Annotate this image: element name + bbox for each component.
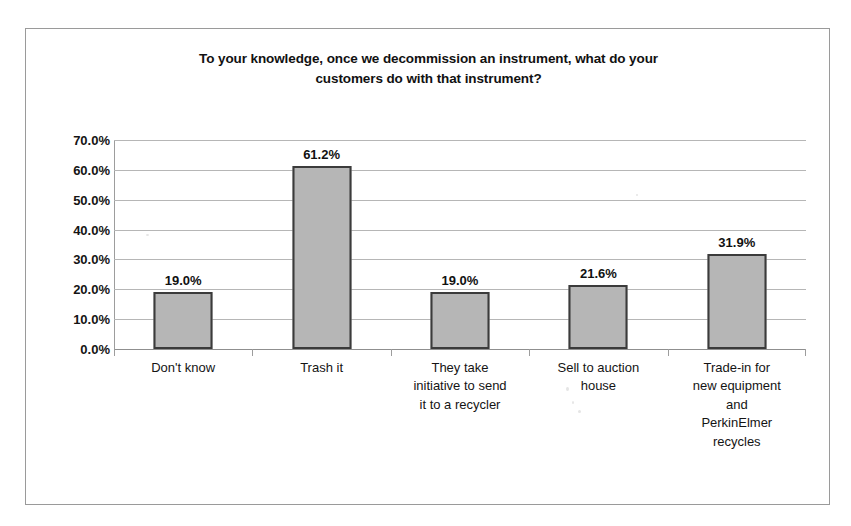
y-tick-label-40: 40.0%: [34, 222, 110, 237]
x-tick-3: [529, 349, 530, 356]
bar-trade-in-perkinelmer[interactable]: [707, 254, 766, 349]
bar-value-1: 19.0%: [165, 273, 202, 288]
x-tick-2: [391, 349, 392, 356]
y-tick-label-20: 20.0%: [34, 282, 110, 297]
x-label-dont-know: Don't know: [114, 359, 252, 377]
bar-sell-to-auction-house[interactable]: [569, 285, 628, 349]
x-label-sell-to-auction-house: Sell to auction house: [529, 359, 667, 396]
chart-title-line-1: To your knowledge, once we decommission …: [116, 49, 741, 69]
x-label-line: recycles: [668, 433, 806, 451]
x-label-line: Don't know: [114, 359, 252, 377]
x-label-line: initiative to send: [391, 377, 529, 395]
y-tick-label-50: 50.0%: [34, 192, 110, 207]
x-axis-labels: Don't know Trash it They take initiative…: [114, 359, 806, 489]
y-tick-label-0: 0.0%: [34, 342, 110, 357]
plot-area: 19.0% 61.2% 19.0% 21.6% 31.9%: [114, 140, 806, 349]
x-label-line: it to a recycler: [391, 396, 529, 414]
x-label-line: PerkinElmer: [668, 414, 806, 432]
x-label-trade-in-perkinelmer: Trade-in for new equipment and PerkinElm…: [668, 359, 806, 451]
bar-slot-4: 21.6%: [529, 140, 667, 349]
bar-slot-1: 19.0%: [114, 140, 252, 349]
x-tick-0: [114, 349, 115, 356]
bar-value-2: 61.2%: [303, 147, 340, 162]
y-axis-labels: 70.0% 60.0% 50.0% 40.0% 30.0% 20.0% 10.0…: [26, 140, 110, 349]
bar-dont-know[interactable]: [154, 292, 213, 349]
bar-value-5: 31.9%: [718, 235, 755, 250]
x-tick-1: [252, 349, 253, 356]
x-axis-ticks: [114, 349, 806, 356]
chart-title-line-2: customers do with that instrument?: [116, 69, 741, 89]
bar-they-take-initiative[interactable]: [430, 292, 489, 349]
bar-slot-5: 31.9%: [668, 140, 806, 349]
x-label-line: new equipment: [668, 377, 806, 395]
x-label-line: Trade-in for: [668, 359, 806, 377]
bar-value-4: 21.6%: [580, 266, 617, 281]
x-label-line: and: [668, 396, 806, 414]
x-label-line: house: [529, 377, 667, 395]
bar-trash-it[interactable]: [292, 166, 351, 349]
x-label-trash-it: Trash it: [252, 359, 390, 377]
chart-frame: To your knowledge, once we decommission …: [25, 28, 830, 505]
bar-slot-2: 61.2%: [252, 140, 390, 349]
x-label-they-take-initiative: They take initiative to send it to a rec…: [391, 359, 529, 414]
x-tick-4: [668, 349, 669, 356]
y-tick-label-10: 10.0%: [34, 312, 110, 327]
y-tick-label-60: 60.0%: [34, 162, 110, 177]
x-label-line: Sell to auction: [529, 359, 667, 377]
y-tick-label-70: 70.0%: [34, 133, 110, 148]
x-tick-5: [805, 349, 806, 356]
bar-value-3: 19.0%: [442, 273, 479, 288]
chart-title: To your knowledge, once we decommission …: [116, 49, 741, 88]
bar-slot-3: 19.0%: [391, 140, 529, 349]
x-label-line: They take: [391, 359, 529, 377]
y-tick-label-30: 30.0%: [34, 252, 110, 267]
x-label-line: Trash it: [252, 359, 390, 377]
